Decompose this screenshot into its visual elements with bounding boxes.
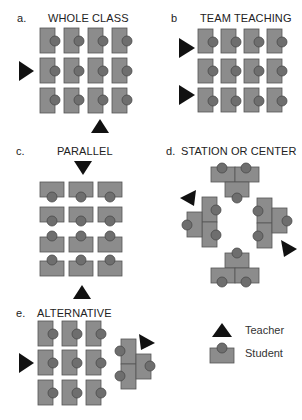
panel-d-seating xyxy=(182,163,292,287)
teacher-triangle-icon xyxy=(73,285,91,299)
teacher-triangle-icon xyxy=(139,334,155,350)
classroom-arrangements-diagram xyxy=(0,0,302,420)
teacher-triangle-icon xyxy=(19,353,34,373)
teacher-triangle-icon xyxy=(74,161,92,175)
panel-a-seating xyxy=(40,28,132,113)
legend xyxy=(210,323,234,363)
teacher-triangle-icon xyxy=(19,61,34,81)
panel-e-small-group xyxy=(115,339,155,389)
legend-student-circle-icon xyxy=(217,343,227,353)
teacher-triangle-icon xyxy=(180,190,196,206)
panel-b-seating xyxy=(198,29,287,112)
legend-teacher-triangle-icon xyxy=(212,323,232,337)
teacher-triangle-icon xyxy=(281,240,297,257)
panel-c-seating xyxy=(40,182,122,276)
teacher-triangle-icon xyxy=(179,38,195,58)
teacher-triangle-icon xyxy=(91,119,109,133)
teacher-triangle-icon xyxy=(179,85,195,105)
panel-e-seating xyxy=(38,321,106,405)
